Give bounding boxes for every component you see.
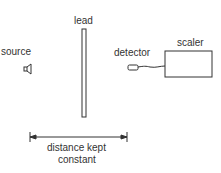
scaler-label: scaler — [177, 37, 204, 48]
lead-label: lead — [74, 15, 93, 26]
source-icon — [24, 64, 31, 74]
scaler-box — [165, 51, 212, 77]
detector-label: detector — [114, 47, 150, 58]
source-label: source — [1, 46, 31, 57]
lead-slab — [82, 29, 86, 117]
distance-label-line1: distance kept — [47, 142, 106, 153]
distance-arrow — [30, 132, 127, 142]
detector-icon — [128, 65, 138, 70]
distance-label-line2: constant — [58, 154, 96, 165]
diagram-canvas — [0, 0, 221, 173]
detector-cable — [138, 66, 165, 67]
